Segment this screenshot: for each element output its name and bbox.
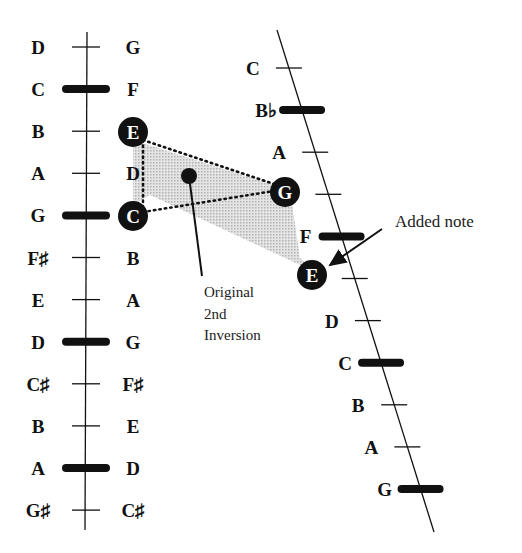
- left-axis-row: B: [32, 121, 100, 142]
- right-note-label: F♯: [122, 374, 144, 395]
- diagonal-note-label: F: [300, 226, 312, 247]
- right-note-label: B: [127, 248, 140, 269]
- right-axis-row: B♭: [255, 100, 321, 121]
- left-note-label: A: [31, 163, 45, 184]
- left-note-label: D: [31, 332, 45, 353]
- circled-note-g-right: G: [270, 177, 300, 207]
- diagonal-note-label: C: [338, 353, 352, 374]
- annotation-2nd: 2nd: [204, 306, 227, 322]
- right-note-label: G: [126, 332, 141, 353]
- annotation-inversion: Inversion: [204, 327, 261, 343]
- diagonal-note-label: D: [325, 311, 339, 332]
- diagonal-note-label: B♭: [255, 100, 277, 121]
- right-note-label: A: [126, 290, 140, 311]
- left-note-label: C: [31, 79, 45, 100]
- svg-text:E: E: [127, 122, 140, 143]
- right-note-label: E: [127, 416, 140, 437]
- circled-note-e-left: E: [118, 117, 148, 147]
- circled-note-e-right: E: [297, 260, 327, 290]
- left-note-label: E: [32, 290, 45, 311]
- left-note-label: F♯: [27, 248, 49, 269]
- left-axis-row: F♯B: [27, 248, 139, 269]
- left-axis-row: DG: [31, 37, 140, 58]
- right-axis-row: A: [365, 437, 421, 458]
- left-axis-line: [85, 32, 87, 530]
- annotation-original: Original: [204, 284, 254, 300]
- right-note-label: C♯: [121, 500, 145, 521]
- diagonal-note-label: A: [365, 437, 379, 458]
- left-note-label: A: [31, 458, 45, 479]
- svg-text:C: C: [126, 206, 140, 227]
- diagram-svg: DGCFBADGF♯BEADGC♯F♯BEADG♯C♯ CB♭AFDCBAG O…: [0, 0, 522, 553]
- annotation-added-note: Added note: [395, 212, 474, 231]
- right-axis-row: A: [272, 142, 328, 163]
- right-note-label: G: [126, 37, 141, 58]
- left-note-label: G: [31, 205, 46, 226]
- right-note-label: D: [126, 458, 140, 479]
- right-axis-row: D: [325, 311, 381, 332]
- left-axis-row: CF: [31, 79, 139, 100]
- left-note-label: B: [32, 416, 45, 437]
- diagonal-note-label: G: [377, 479, 392, 500]
- left-axis-row: AD: [31, 163, 140, 184]
- left-note-label: C♯: [26, 374, 50, 395]
- chord-diagram: DGCFBADGF♯BEADGC♯F♯BEADG♯C♯ CB♭AFDCBAG O…: [0, 0, 522, 553]
- svg-text:E: E: [306, 265, 319, 286]
- right-axis-row: F: [300, 226, 361, 247]
- right-note-label: D: [126, 163, 140, 184]
- diagonal-note-label: B: [352, 395, 365, 416]
- right-axis-row: G: [377, 479, 439, 500]
- right-axis-row: B: [352, 395, 407, 416]
- svg-text:G: G: [278, 182, 293, 203]
- right-axis-row: C: [338, 353, 400, 374]
- left-axis-row: G: [31, 205, 106, 226]
- right-axis-row: C: [246, 58, 302, 79]
- left-note-label: G♯: [26, 500, 51, 521]
- diagonal-note-label: C: [246, 58, 260, 79]
- circled-note-c-left: C: [118, 201, 148, 231]
- left-note-label: D: [31, 37, 45, 58]
- right-note-label: F: [127, 79, 139, 100]
- left-note-label: B: [32, 121, 45, 142]
- diagonal-note-label: A: [272, 142, 286, 163]
